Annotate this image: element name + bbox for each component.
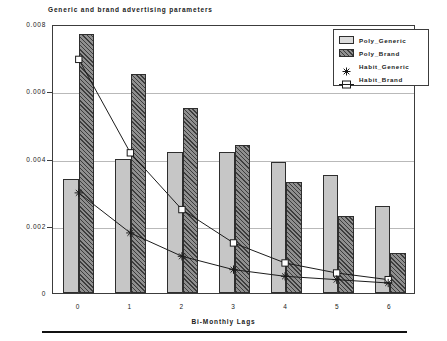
square-marker-icon bbox=[230, 240, 236, 246]
legend-key-poly-generic-icon bbox=[339, 36, 354, 44]
y-axis-tick-label: 0.008 bbox=[2, 21, 46, 28]
x-axis-tick-label: 4 bbox=[283, 303, 287, 310]
x-axis-tick-label: 1 bbox=[128, 303, 132, 310]
y-axis-tick-label: 0.002 bbox=[2, 223, 46, 230]
x-axis-tick-mark bbox=[182, 290, 183, 294]
x-axis-title: Bi-Monthly Lags bbox=[0, 318, 447, 325]
square-marker-icon bbox=[333, 270, 339, 276]
x-axis-tick-mark bbox=[234, 290, 235, 294]
habit-generic-series bbox=[75, 189, 393, 287]
legend-key-habit-generic-icon bbox=[339, 62, 354, 70]
square-marker-icon bbox=[127, 150, 133, 156]
chart-figure: Generic and brand advertising parameters… bbox=[0, 0, 447, 341]
y-axis-tick-label: 0 bbox=[2, 290, 46, 297]
y-axis-tick-label: 0.004 bbox=[2, 156, 46, 163]
chart-title: Generic and brand advertising parameters bbox=[48, 6, 213, 13]
legend-item: Habit_Generic bbox=[339, 60, 409, 72]
legend-item-label: Habit_Brand bbox=[359, 76, 403, 83]
legend-item-label: Poly_Brand bbox=[359, 50, 400, 57]
square-marker-icon bbox=[282, 260, 288, 266]
legend-key-habit-brand-icon bbox=[339, 75, 354, 83]
x-axis-tick-mark bbox=[78, 290, 79, 294]
x-axis-tick-label: 6 bbox=[387, 303, 391, 310]
square-marker-icon bbox=[76, 56, 82, 62]
chart-legend: Poly_GenericPoly_BrandHabit_GenericHabit… bbox=[333, 29, 429, 86]
legend-key-poly-brand-icon bbox=[339, 49, 354, 57]
legend-item: Poly_Generic bbox=[339, 34, 406, 46]
habit-brand-series bbox=[76, 56, 392, 283]
legend-item: Poly_Brand bbox=[339, 47, 400, 59]
footer-rule bbox=[42, 331, 407, 333]
x-axis-tick-mark bbox=[285, 290, 286, 294]
x-axis-tick-label: 2 bbox=[179, 303, 183, 310]
square-marker-icon bbox=[179, 206, 185, 212]
x-axis-tick-mark bbox=[389, 290, 390, 294]
x-axis-tick-label: 5 bbox=[335, 303, 339, 310]
legend-item: Habit_Brand bbox=[339, 73, 403, 85]
legend-item-label: Poly_Generic bbox=[359, 37, 406, 44]
x-axis-tick-mark bbox=[130, 290, 131, 294]
x-axis-tick-label: 0 bbox=[76, 303, 80, 310]
legend-item-label: Habit_Generic bbox=[359, 63, 409, 70]
y-axis-tick-label: 0.006 bbox=[2, 88, 46, 95]
x-axis-tick-label: 3 bbox=[231, 303, 235, 310]
x-axis-tick-mark bbox=[337, 290, 338, 294]
